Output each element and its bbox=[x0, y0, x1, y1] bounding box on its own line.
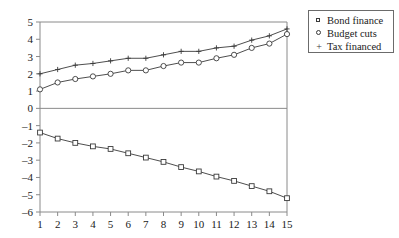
data-series-layer bbox=[37, 26, 289, 200]
svg-text:12: 12 bbox=[229, 218, 240, 230]
svg-text:4: 4 bbox=[90, 218, 96, 230]
svg-text:–3: –3 bbox=[21, 154, 34, 166]
svg-text:6: 6 bbox=[125, 218, 131, 230]
svg-text:–1: –1 bbox=[21, 120, 33, 132]
svg-text:5: 5 bbox=[108, 218, 114, 230]
svg-text:13: 13 bbox=[246, 218, 258, 230]
x-axis-tick-labels: 123456789101112131415 bbox=[37, 218, 293, 230]
plus-marker-icon: + bbox=[313, 41, 325, 52]
svg-text:–5: –5 bbox=[21, 189, 34, 201]
svg-text:5: 5 bbox=[28, 16, 34, 28]
svg-text:4: 4 bbox=[28, 33, 34, 45]
svg-text:–6: –6 bbox=[21, 206, 34, 218]
legend-label-budget-cuts: Budget cuts bbox=[327, 28, 377, 39]
chart-figure: 543210–1–2–3–4–5–6 123456789101112131415… bbox=[0, 0, 399, 238]
legend-label-bond-finance: Bond finance bbox=[327, 15, 383, 26]
svg-text:2: 2 bbox=[55, 218, 61, 230]
svg-text:14: 14 bbox=[264, 218, 276, 230]
y-axis-tick-labels: 543210–1–2–3–4–5–6 bbox=[21, 16, 34, 218]
svg-text:8: 8 bbox=[161, 218, 167, 230]
svg-text:0: 0 bbox=[28, 102, 34, 114]
svg-text:10: 10 bbox=[193, 218, 205, 230]
chart-legend: Bond finance Budget cuts + Tax financed bbox=[308, 10, 394, 53]
legend-item-budget-cuts: Budget cuts bbox=[313, 27, 389, 39]
svg-text:–2: –2 bbox=[21, 137, 33, 149]
svg-text:7: 7 bbox=[143, 218, 149, 230]
svg-text:9: 9 bbox=[178, 218, 184, 230]
square-marker-icon bbox=[313, 15, 325, 26]
svg-text:1: 1 bbox=[28, 85, 34, 97]
svg-text:–4: –4 bbox=[21, 171, 34, 183]
svg-text:3: 3 bbox=[73, 218, 79, 230]
legend-label-tax-financed: Tax financed bbox=[327, 41, 381, 52]
legend-item-tax-financed: + Tax financed bbox=[313, 40, 389, 52]
svg-text:1: 1 bbox=[37, 218, 43, 230]
diamond-marker-icon bbox=[313, 28, 325, 39]
legend-item-bond-finance: Bond finance bbox=[313, 14, 389, 26]
svg-text:2: 2 bbox=[28, 68, 34, 80]
series-bond-finance bbox=[38, 130, 290, 200]
svg-text:3: 3 bbox=[28, 51, 34, 63]
svg-text:15: 15 bbox=[282, 218, 294, 230]
svg-text:11: 11 bbox=[211, 218, 222, 230]
